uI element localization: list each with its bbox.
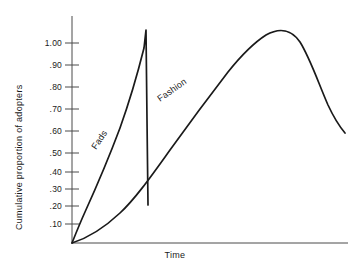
chart-canvas: 1.00 .90 .80 .70 .60 .50 .40 .30 .20 .10… bbox=[0, 0, 359, 268]
y-tick-label: .20 bbox=[50, 201, 62, 211]
y-tick-label: .50 bbox=[50, 148, 62, 158]
y-tick-label: .70 bbox=[50, 104, 62, 114]
y-axis-title: Cumulative proportion of adopters bbox=[14, 84, 24, 230]
chart-figure: 1.00 .90 .80 .70 .60 .50 .40 .30 .20 .10… bbox=[0, 0, 359, 268]
fashion-curve bbox=[72, 31, 345, 243]
y-tick-label: .40 bbox=[50, 167, 62, 177]
x-axis-title: Time bbox=[165, 250, 186, 260]
y-tick-label: .80 bbox=[50, 82, 62, 92]
y-tick-label: .30 bbox=[50, 184, 62, 194]
fads-series-label: Fads bbox=[89, 128, 109, 151]
y-tick-label: .90 bbox=[50, 60, 62, 70]
y-tick-label: 1.00 bbox=[45, 38, 62, 48]
fads-curve bbox=[72, 30, 148, 243]
y-tick-label: .10 bbox=[50, 219, 62, 229]
y-tick-label: .60 bbox=[50, 126, 62, 136]
fashion-series-label: Fashion bbox=[155, 76, 188, 103]
